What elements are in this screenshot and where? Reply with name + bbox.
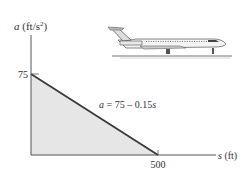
- x-axis-label: s (ft): [218, 150, 237, 162]
- airplane-icon: [108, 27, 226, 54]
- y-axis-label: a (ft/s2): [14, 20, 47, 33]
- equation-annotation: a = 75 – 0.15s: [99, 99, 156, 110]
- y-tick-label: 75: [18, 69, 28, 80]
- airplane-illustration: [108, 27, 232, 58]
- x-tick-label: 500: [151, 159, 166, 170]
- acceleration-chart: 75500 a (ft/s2) s (ft) a = 75 – 0.15s: [0, 0, 250, 181]
